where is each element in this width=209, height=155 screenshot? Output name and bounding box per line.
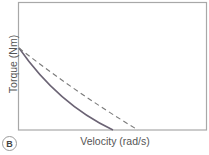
solid-curve	[19, 48, 113, 130]
x-axis-label: Velocity (rad/s)	[60, 135, 170, 147]
plot-frame	[19, 3, 207, 131]
chart-plot-area	[0, 0, 209, 155]
dashed-curve	[19, 48, 138, 130]
panel-label-badge: B	[2, 136, 17, 151]
y-axis-label: Torque (Nm)	[7, 9, 19, 119]
